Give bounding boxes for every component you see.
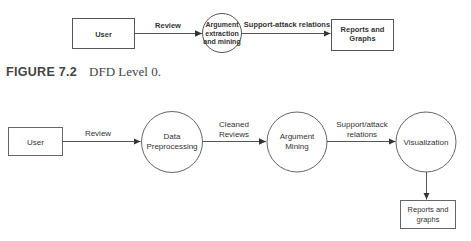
flow-support-attack-label-line1: Support/attack [336, 120, 389, 129]
flow-review-label: Review [85, 129, 111, 138]
entity-reports-label-line2: graphs [417, 215, 440, 224]
entity-user-label: User [95, 30, 112, 39]
flow-support-attack-label-line2: relations [347, 130, 377, 139]
figure-caption: FIGURE 7.2DFD Level 0. [6, 64, 161, 80]
figure-caption-text: DFD Level 0. [89, 64, 161, 79]
figure-label: FIGURE 7.2 [6, 65, 77, 79]
entity-reports-label-line2: Graphs [349, 34, 375, 43]
flow-support-attack-l1: Support/attack relations [327, 120, 396, 142]
process-argument-extraction: Argument extraction and mining [203, 14, 242, 53]
entity-user-label: User [27, 138, 44, 147]
process-argument-mining: Argument Mining [267, 112, 327, 172]
flow-cleaned-reviews-label-line1: Cleaned [219, 120, 249, 129]
entity-reports-l0: Reports and Graphs [332, 20, 394, 51]
process-label-line1: Argument [280, 132, 315, 141]
process-label-line2: Mining [285, 142, 309, 151]
entity-reports-label-line1: Reports and [341, 25, 385, 34]
flow-support-attack-l0: Support-attack relations [242, 20, 331, 34]
process-label: Visualization [404, 138, 449, 147]
flow-cleaned-reviews-label-line2: Reviews [219, 130, 249, 139]
flow-support-attack-label: Support-attack relations [244, 20, 330, 29]
flow-review-l0: Review [135, 21, 203, 34]
process-label-line2: Preprocessing [146, 142, 197, 151]
process-label-line3: and mining [203, 38, 240, 46]
flow-review-label: Review [155, 21, 181, 30]
entity-reports-l1: Reports and graphs [401, 201, 456, 229]
process-data-preprocessing: Data Preprocessing [142, 112, 203, 173]
flow-review-l1: Review [63, 129, 141, 142]
dfd-level-0: User Review Argument extraction and mini… [73, 14, 394, 53]
entity-user-l0: User [73, 19, 135, 49]
flow-cleaned-reviews: Cleaned Reviews [203, 120, 267, 142]
dfd-level-1: User Review Data Preprocessing Cleaned R… [9, 112, 457, 229]
entity-reports-label-line1: Reports and [408, 205, 449, 214]
process-label-line1: Data [164, 132, 181, 141]
process-label-line2: extraction [205, 30, 238, 37]
entity-user-l1: User [9, 128, 63, 156]
process-label-line1: Argument [205, 21, 239, 29]
process-visualization: Visualization [396, 112, 456, 172]
dfd-canvas: User Review Argument extraction and mini… [0, 0, 471, 241]
